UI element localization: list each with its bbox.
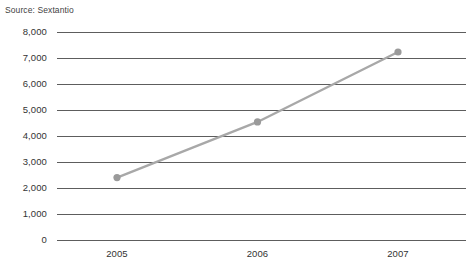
data-point-marker	[254, 118, 261, 125]
data-point-marker	[113, 174, 120, 181]
data-series-layer	[0, 0, 474, 275]
series-line	[117, 52, 398, 178]
data-point-marker	[394, 48, 401, 55]
line-chart-figure: 8,0007,0006,0005,0004,0003,0002,0001,000…	[0, 0, 474, 275]
